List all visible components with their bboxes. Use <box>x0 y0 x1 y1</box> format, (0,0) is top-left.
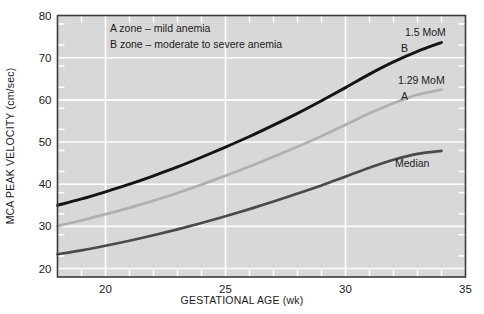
x-tick-label: 20 <box>99 283 112 295</box>
b-curve-zone-label: B <box>401 42 408 54</box>
y-tick-label: 30 <box>39 220 52 232</box>
b-zone-note: B zone – moderate to severe anemia <box>110 38 282 50</box>
a-curve-zone-label: A <box>401 90 408 102</box>
x-axis-title: GESTATIONAL AGE (wk) <box>181 294 304 306</box>
x-tick-label: 30 <box>339 283 352 295</box>
a-curve-mom-label: 1.29 MoM <box>398 74 445 86</box>
x-tick-label: 35 <box>459 283 472 295</box>
y-tick-label: 80 <box>39 10 52 22</box>
plot-area-background <box>58 16 466 278</box>
y-tick-label: 20 <box>39 263 52 275</box>
y-tick-label: 40 <box>39 178 52 190</box>
y-tick-label: 60 <box>39 94 52 106</box>
chart-canvas: 20304050607080 20253035 GESTATIONAL AGE … <box>0 0 484 314</box>
y-tick-label: 50 <box>39 136 52 148</box>
mca-peak-velocity-chart: 20304050607080 20253035 GESTATIONAL AGE … <box>0 0 484 314</box>
a-zone-note: A zone – mild anemia <box>110 22 211 34</box>
y-axis-title: MCA PEAK VELOCITY (cm/sec) <box>4 68 16 225</box>
median-curve-label: Median <box>395 157 430 169</box>
y-tick-label: 70 <box>39 52 52 64</box>
b-curve-mom-label: 1.5 MoM <box>405 26 446 38</box>
